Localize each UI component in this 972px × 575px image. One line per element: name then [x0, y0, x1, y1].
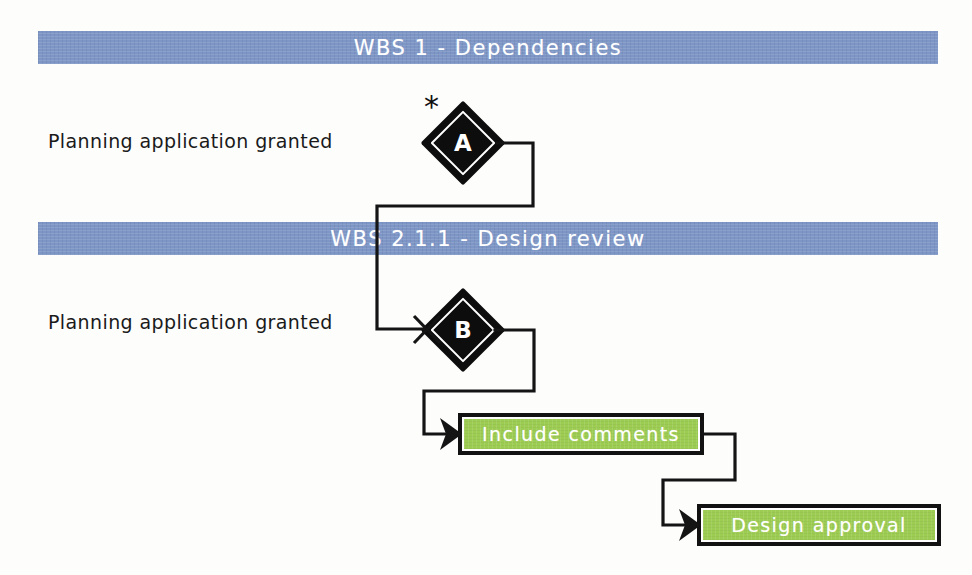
task-design-approval-label: Design approval: [731, 514, 907, 536]
milestone-b-letter: B: [433, 300, 493, 360]
milestone-a[interactable]: A: [433, 113, 493, 173]
milestone-b[interactable]: B: [433, 300, 493, 360]
connector-layer: [0, 0, 972, 575]
diagram-canvas: WBS 1 - Dependencies Planning applicatio…: [0, 0, 972, 575]
wbs-banner-1-label: WBS 1 - Dependencies: [354, 36, 623, 60]
task-design-approval-fill: Design approval: [703, 510, 935, 540]
task-include-comments-fill: Include comments: [464, 419, 698, 449]
task-include-comments-label: Include comments: [482, 423, 680, 445]
task-design-approval[interactable]: Design approval: [697, 504, 941, 546]
asterisk-marker: *: [424, 92, 439, 122]
milestone-a-letter: A: [433, 113, 493, 173]
row-label-planning-application-granted-2: Planning application granted: [48, 311, 333, 333]
wbs-banner-2: WBS 2.1.1 - Design review: [38, 222, 938, 255]
wbs-banner-2-label: WBS 2.1.1 - Design review: [330, 227, 645, 251]
row-label-planning-application-granted-1: Planning application granted: [48, 130, 333, 152]
wbs-banner-1: WBS 1 - Dependencies: [38, 31, 938, 64]
task-include-comments[interactable]: Include comments: [458, 413, 704, 455]
